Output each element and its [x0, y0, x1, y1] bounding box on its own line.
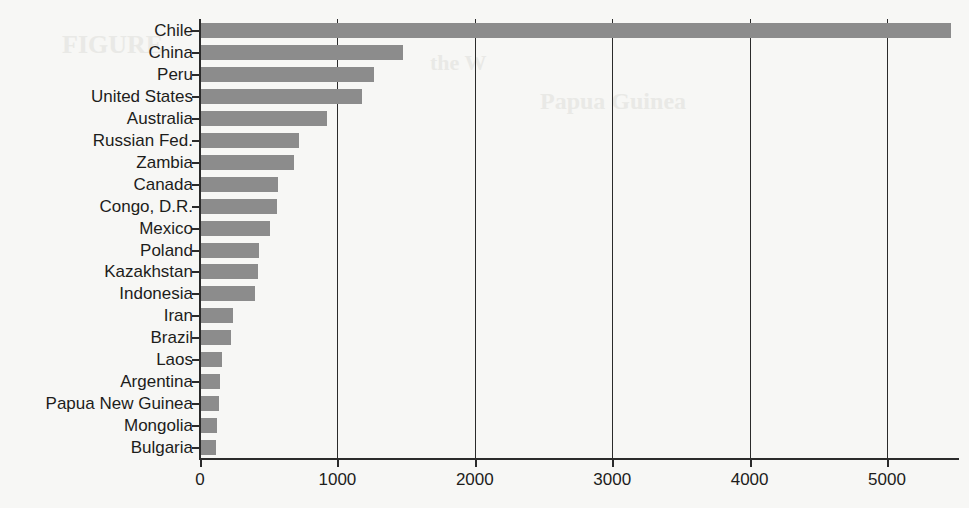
bar-row: Iran [0, 305, 969, 327]
category-label: Papua New Guinea [46, 393, 193, 415]
bar [201, 45, 403, 60]
bar-row: Kazakhstan [0, 261, 969, 283]
category-label: Argentina [120, 371, 193, 393]
category-label: Brazil [150, 327, 193, 349]
bar-row: United States [0, 86, 969, 108]
y-axis-tick [192, 184, 200, 186]
bar-row: Argentina [0, 371, 969, 393]
bar [201, 67, 374, 82]
bar-row: Laos [0, 349, 969, 371]
bar [201, 418, 217, 433]
y-axis-tick [192, 140, 200, 142]
category-label: Bulgaria [131, 437, 193, 459]
y-axis-tick [192, 96, 200, 98]
bar [201, 286, 255, 301]
y-axis-tick [192, 381, 200, 383]
y-axis-tick [192, 447, 200, 449]
y-axis-tick [192, 30, 200, 32]
category-label: Laos [156, 349, 193, 371]
bar [201, 374, 220, 389]
bar [201, 243, 259, 258]
category-label: Mongolia [124, 415, 193, 437]
bar-row: Chile [0, 20, 969, 42]
x-axis-tick-label: 0 [195, 470, 204, 490]
y-axis-tick [192, 206, 200, 208]
x-axis-tick [337, 458, 339, 467]
category-label: Zambia [136, 152, 193, 174]
y-axis-tick [192, 228, 200, 230]
x-axis-tick-label: 5000 [868, 470, 906, 490]
category-label: Chile [154, 20, 193, 42]
category-label: Indonesia [119, 283, 193, 305]
bar [201, 264, 258, 279]
x-axis-tick [200, 458, 202, 467]
bar [201, 440, 216, 455]
category-label: Kazakhstan [104, 261, 193, 283]
bar-row: China [0, 42, 969, 64]
x-axis-tick [612, 458, 614, 467]
x-axis-tick-label: 2000 [456, 470, 494, 490]
y-axis-tick [192, 52, 200, 54]
bar [201, 330, 231, 345]
bar [201, 308, 233, 323]
y-axis-tick [192, 118, 200, 120]
bar-row: Mongolia [0, 415, 969, 437]
category-label: Iran [164, 305, 193, 327]
bar [201, 89, 362, 104]
bar [201, 155, 294, 170]
bar [201, 23, 951, 38]
x-axis-tick [750, 458, 752, 467]
y-axis-tick [192, 250, 200, 252]
bar-row: Brazil [0, 327, 969, 349]
y-axis-tick [192, 425, 200, 427]
bar-row: Bulgaria [0, 437, 969, 459]
category-label: China [149, 42, 193, 64]
bar [201, 133, 299, 148]
bar-row: Poland [0, 240, 969, 262]
x-axis-tick [475, 458, 477, 467]
y-axis-tick [192, 293, 200, 295]
x-axis-tick [887, 458, 889, 467]
category-label: Poland [140, 240, 193, 262]
bar [201, 177, 278, 192]
bar [201, 199, 277, 214]
bar-row: Papua New Guinea [0, 393, 969, 415]
bar [201, 396, 219, 411]
bar-row: Peru [0, 64, 969, 86]
y-axis-tick [192, 74, 200, 76]
bar-row: Zambia [0, 152, 969, 174]
bar-row: Australia [0, 108, 969, 130]
category-label: Mexico [139, 218, 193, 240]
bar [201, 221, 270, 236]
category-label: Peru [157, 64, 193, 86]
y-axis-tick [192, 315, 200, 317]
x-axis-tick-label: 1000 [318, 470, 356, 490]
y-axis-tick [192, 162, 200, 164]
bar-chart: ChileChinaPeruUnited StatesAustraliaRuss… [0, 0, 969, 508]
x-axis-tick-label: 3000 [593, 470, 631, 490]
bar-row: Indonesia [0, 283, 969, 305]
bar-row: Mexico [0, 218, 969, 240]
y-axis-tick [192, 271, 200, 273]
category-label: United States [91, 86, 193, 108]
category-label: Canada [133, 174, 193, 196]
category-label: Congo, D.R. [99, 196, 193, 218]
x-axis-tick-label: 4000 [731, 470, 769, 490]
bar-row: Russian Fed. [0, 130, 969, 152]
y-axis-tick [192, 403, 200, 405]
bar [201, 352, 222, 367]
bar-row: Canada [0, 174, 969, 196]
y-axis-tick [192, 337, 200, 339]
category-label: Russian Fed. [93, 130, 193, 152]
y-axis-tick [192, 359, 200, 361]
bar-row: Congo, D.R. [0, 196, 969, 218]
bar [201, 111, 327, 126]
category-label: Australia [127, 108, 193, 130]
